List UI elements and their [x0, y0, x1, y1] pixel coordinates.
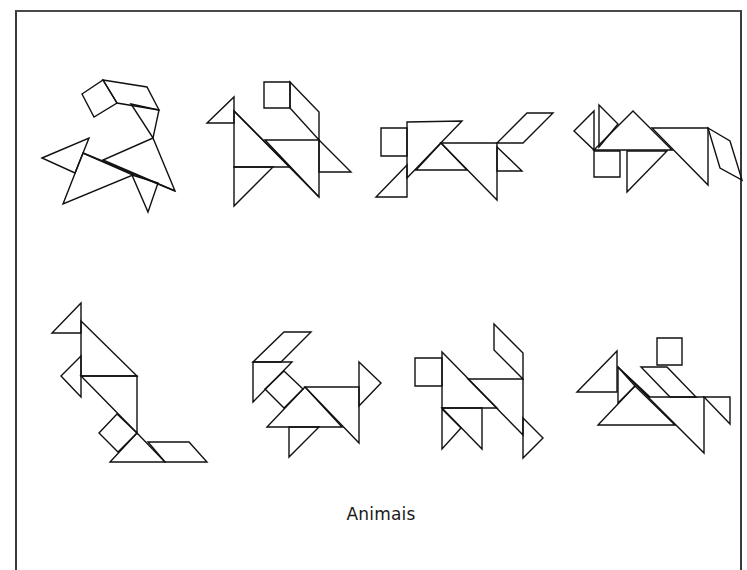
triangle-piece [305, 387, 359, 443]
triangle-piece [110, 433, 165, 462]
tangram-animal-5 [52, 303, 207, 462]
triangle-piece [442, 409, 461, 449]
triangle-piece [63, 153, 133, 204]
quad-piece [264, 82, 290, 108]
quad-piece [494, 324, 523, 379]
quad-piece [641, 367, 696, 397]
quad-piece [657, 338, 682, 365]
triangle-piece [599, 105, 618, 147]
tangram-animal-2 [207, 82, 351, 206]
triangle-piece [441, 143, 497, 200]
quad-piece [290, 82, 319, 140]
triangle-piece [618, 367, 635, 403]
triangle-piece [704, 397, 730, 424]
quad-piece [381, 128, 407, 156]
triangle-piece [267, 387, 342, 427]
caption-animais: Animais [0, 504, 747, 524]
triangle-piece [627, 151, 667, 192]
triangle-piece [132, 175, 158, 212]
tangram-animal-6 [253, 332, 381, 457]
quad-piece [415, 358, 442, 386]
quad-piece [618, 367, 704, 453]
quad-piece [253, 332, 311, 362]
quad-piece [594, 151, 620, 177]
triangle-piece [497, 147, 522, 171]
quad-piece [497, 113, 553, 143]
triangle-piece [234, 167, 273, 206]
triangle-piece [416, 143, 467, 170]
triangle-piece [131, 104, 159, 138]
quad-piece [265, 371, 303, 408]
quad-piece [148, 442, 207, 462]
triangle-piece [207, 97, 234, 123]
triangle-piece [376, 165, 407, 197]
triangle-piece [574, 111, 594, 150]
triangle-piece [523, 418, 543, 458]
triangle-piece [359, 362, 381, 406]
triangle-piece [61, 356, 81, 397]
quad-piece [103, 80, 159, 110]
triangle-piece [319, 140, 351, 172]
triangle-piece [594, 111, 672, 150]
tangram-animal-1 [42, 80, 175, 212]
triangle-piece [577, 351, 617, 392]
triangle-piece [468, 379, 523, 435]
quad-piece [99, 414, 137, 452]
tangram-animal-3 [376, 113, 553, 200]
triangle-piece [652, 128, 708, 185]
quad-piece [708, 128, 742, 180]
tangram-animal-4 [574, 105, 742, 192]
edge-line [234, 111, 319, 197]
tangram-animal-8 [577, 338, 730, 453]
triangle-piece [289, 427, 319, 457]
quad-piece [82, 80, 117, 117]
triangle-piece [52, 303, 81, 333]
tangram-animal-7 [415, 324, 543, 458]
triangle-piece [81, 321, 137, 376]
